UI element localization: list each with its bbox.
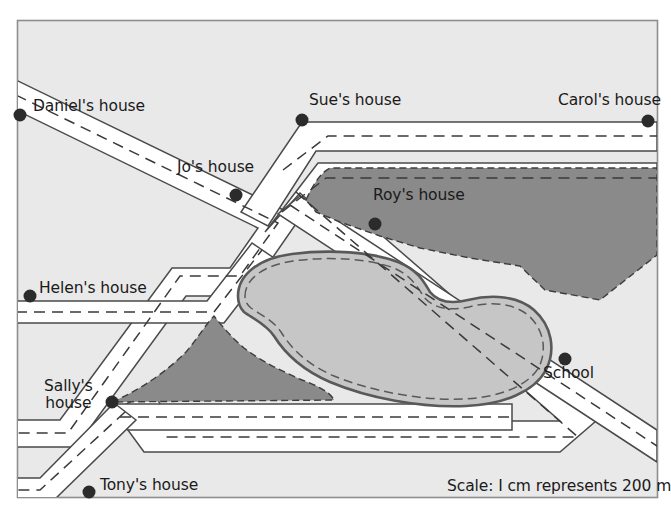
map-container: Daniel's house Sue's house Carol's house… — [0, 0, 671, 522]
label-sally: Sally's house — [44, 378, 93, 413]
marker-tony[interactable] — [83, 486, 96, 499]
marker-sue[interactable] — [296, 114, 309, 127]
label-sue: Sue's house — [309, 92, 401, 109]
marker-roy[interactable] — [369, 218, 382, 231]
scale-statement: Scale: I cm represents 200 m — [447, 477, 671, 495]
marker-helen[interactable] — [24, 290, 37, 303]
place-markers-layer — [0, 0, 671, 522]
label-daniel: Daniel's house — [33, 98, 145, 115]
marker-daniel[interactable] — [14, 109, 27, 122]
label-helen: Helen's house — [39, 280, 147, 297]
marker-jo[interactable] — [230, 189, 243, 202]
label-tony: Tony's house — [100, 477, 198, 494]
label-jo: Jo's house — [177, 159, 254, 176]
marker-sally[interactable] — [106, 396, 119, 409]
label-school: School — [543, 365, 594, 382]
label-carol: Carol's house — [558, 92, 661, 109]
label-roy: Roy's house — [373, 187, 465, 204]
marker-carol[interactable] — [642, 115, 655, 128]
